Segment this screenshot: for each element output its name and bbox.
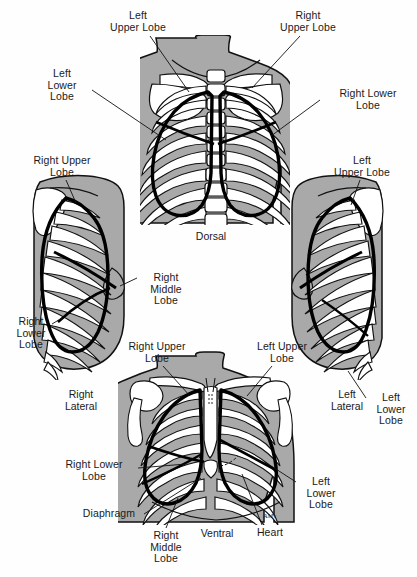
- label-right-lateral-right-lower-lobe: Right Lower Lobe: [8, 316, 54, 351]
- label-right-lateral-right-upper-lobe: Right Upper Lobe: [22, 155, 102, 178]
- label-dorsal-right-lower-lobe: Right Lower Lobe: [322, 88, 414, 111]
- label-ventral-left-lower-lobe: Left Lower Lobe: [298, 476, 344, 511]
- label-right-lateral-right-middle-lobe: Right Middle Lobe: [140, 272, 192, 307]
- label-dorsal-left-upper-lobe: Left Upper Lobe: [95, 10, 181, 33]
- caption-dorsal: Dorsal: [180, 231, 242, 243]
- figure-page: Left Upper Lobe Right Upper Lobe Left Lo…: [0, 0, 417, 577]
- caption-ventral: Ventral: [187, 528, 247, 540]
- caption-left-lateral: Left Lateral: [322, 389, 372, 412]
- artist-signature: AMy: [263, 512, 276, 520]
- label-ventral-heart: Heart: [250, 527, 290, 539]
- label-left-lateral-left-lower-lobe: Left Lower Lobe: [368, 392, 414, 427]
- label-dorsal-right-upper-lobe: Right Upper Lobe: [265, 10, 351, 33]
- label-ventral-diaphragm: Diaphragm: [76, 508, 142, 520]
- label-dorsal-left-lower-lobe: Left Lower Lobe: [36, 68, 88, 103]
- label-left-lateral-left-upper-lobe: Left Upper Lobe: [320, 155, 404, 178]
- label-ventral-right-lower-lobe: Right Lower Lobe: [50, 459, 138, 482]
- label-ventral-left-upper-lobe: Left Upper Lobe: [243, 341, 321, 364]
- label-ventral-right-middle-lobe: Right Middle Lobe: [140, 530, 192, 565]
- view-right-lateral: [33, 176, 124, 382]
- label-ventral-right-upper-lobe: Right Upper Lobe: [117, 341, 197, 364]
- caption-right-lateral: Right Lateral: [54, 389, 108, 412]
